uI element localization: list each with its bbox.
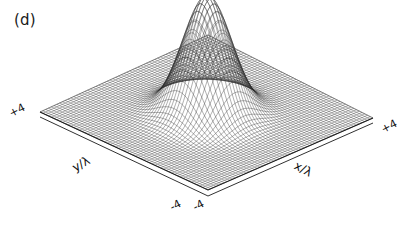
figure-panel: (d) +4 +4 -4 -4 y/λ x/λ — [0, 0, 420, 229]
surface-plot-canvas — [0, 0, 420, 229]
panel-label: (d) — [14, 11, 36, 29]
